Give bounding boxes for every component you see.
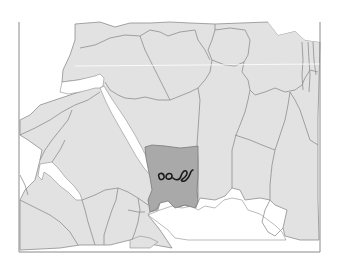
map-view (0, 0, 337, 269)
map-canvas (0, 0, 337, 269)
